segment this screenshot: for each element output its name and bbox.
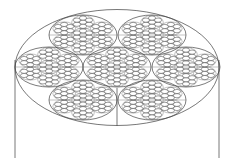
wire xyxy=(119,76,126,80)
wire xyxy=(104,102,111,106)
wire xyxy=(161,94,168,98)
wire xyxy=(92,29,99,33)
wire xyxy=(51,50,58,54)
wire xyxy=(107,80,114,84)
wire xyxy=(123,94,130,98)
wire xyxy=(123,29,130,33)
wire xyxy=(39,54,46,58)
wire xyxy=(54,106,61,110)
wire xyxy=(73,22,80,26)
wire xyxy=(188,76,195,80)
wire xyxy=(136,102,143,106)
wire xyxy=(157,73,164,77)
wire xyxy=(126,61,133,65)
wire xyxy=(123,41,130,45)
wire xyxy=(173,89,180,93)
wire xyxy=(88,61,95,65)
wire-rope-diagram xyxy=(0,0,227,164)
wire xyxy=(85,18,92,22)
wire xyxy=(67,102,74,106)
wire xyxy=(195,61,202,65)
wire xyxy=(73,48,80,52)
wire xyxy=(176,54,183,58)
wire xyxy=(85,44,92,48)
wire xyxy=(154,83,161,87)
strand xyxy=(118,15,186,55)
wire xyxy=(138,69,145,73)
wire xyxy=(88,73,95,77)
wire xyxy=(70,56,77,60)
wire xyxy=(161,29,168,33)
wire xyxy=(20,73,27,77)
strand xyxy=(118,80,186,120)
wire xyxy=(136,37,143,41)
wire xyxy=(176,80,183,84)
wire xyxy=(123,106,130,110)
wire xyxy=(173,102,180,106)
wire xyxy=(51,76,58,80)
wire xyxy=(154,109,161,113)
wire xyxy=(92,94,99,98)
wire xyxy=(188,50,195,54)
wire xyxy=(142,22,149,26)
wire xyxy=(157,61,164,65)
wire xyxy=(170,69,177,73)
strand xyxy=(49,80,117,120)
wire xyxy=(85,83,92,87)
wire xyxy=(54,41,61,45)
wire xyxy=(138,56,145,60)
wire xyxy=(54,29,61,33)
wire xyxy=(207,56,214,60)
wire xyxy=(33,69,40,73)
wire xyxy=(107,54,114,58)
wire xyxy=(173,37,180,41)
wire xyxy=(73,87,80,91)
wire xyxy=(101,69,108,73)
strands-group xyxy=(15,15,220,120)
wire xyxy=(173,24,180,28)
wire xyxy=(142,113,149,117)
wire xyxy=(207,69,214,73)
wire xyxy=(20,61,27,65)
wire xyxy=(70,69,77,73)
wire xyxy=(104,24,111,28)
strand xyxy=(49,15,117,55)
wire xyxy=(154,18,161,22)
wire xyxy=(119,50,126,54)
wire xyxy=(104,89,111,93)
wire xyxy=(67,37,74,41)
wire xyxy=(154,44,161,48)
wire xyxy=(104,37,111,41)
wire xyxy=(54,94,61,98)
wire xyxy=(142,87,149,91)
wire xyxy=(73,113,80,117)
wire xyxy=(58,61,65,65)
wire xyxy=(142,48,149,52)
wire xyxy=(39,80,46,84)
wire xyxy=(85,109,92,113)
